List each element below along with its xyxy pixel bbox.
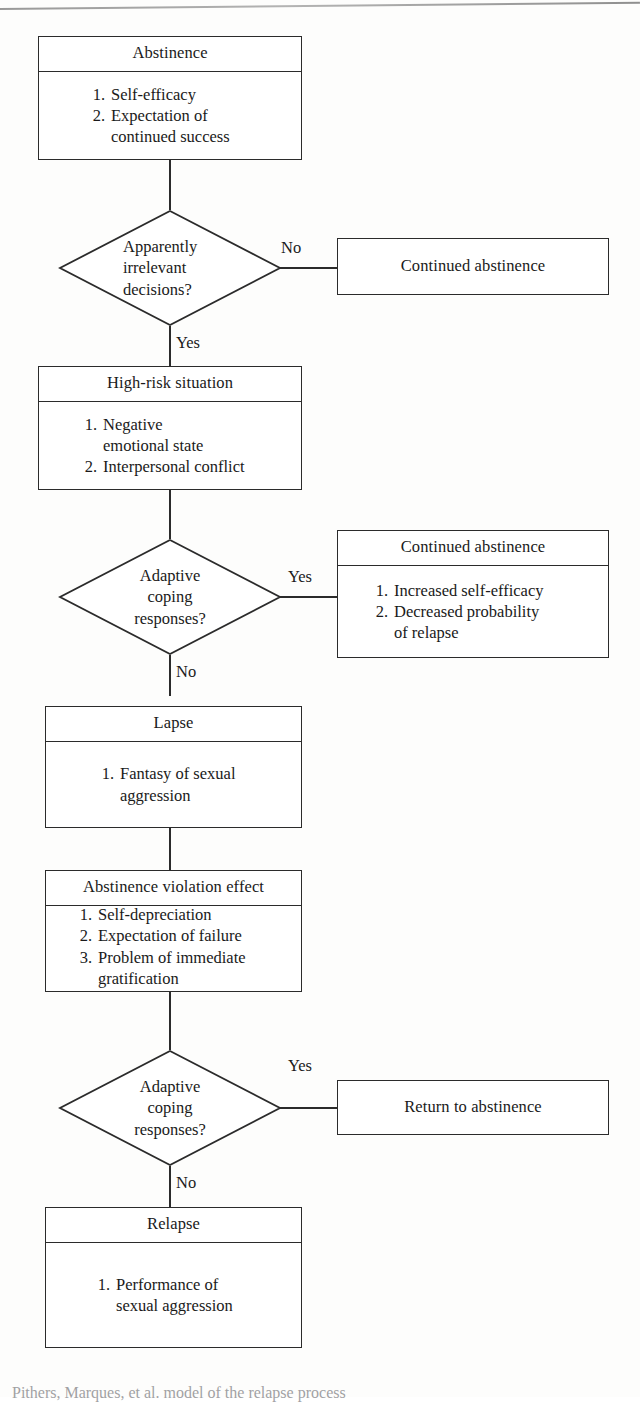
node-continued-abstinence-1[interactable]: Continued abstinence <box>337 238 609 295</box>
list-item-text: Negative emotional state <box>103 414 203 456</box>
list-item: 1. Self-efficacy <box>85 84 230 105</box>
list-item: 1. Fantasy of sexual aggression <box>94 763 235 805</box>
node-high-risk[interactable]: High-risk situation 1. Negative emotiona… <box>38 366 302 490</box>
page-top-rule <box>0 2 640 10</box>
connector-lapse-to-ave <box>169 828 171 870</box>
list-item-number: 1. <box>72 904 98 925</box>
node-continued-abstinence-2-title: Continued abstinence <box>338 531 608 566</box>
figure-caption: Pithers, Marques, et al. model of the re… <box>12 1383 628 1402</box>
connector-highrisk-to-coping1 <box>169 490 171 539</box>
list-item-number: 2. <box>85 105 111 126</box>
node-high-risk-title: High-risk situation <box>39 367 301 402</box>
list-item: 2. Expectation of continued success <box>85 105 230 147</box>
connector-air-yes <box>169 326 171 366</box>
diamond-shape <box>59 539 281 655</box>
node-continued-abstinence-2-list: 1. Increased self-efficacy 2. Decreased … <box>368 580 543 643</box>
list-item-number: 1. <box>77 414 103 435</box>
list-item-text: Performance of sexual aggression <box>116 1274 233 1316</box>
list-item-text: Expectation of failure <box>98 925 242 946</box>
node-relapse[interactable]: Relapse 1. Performance of sexual aggress… <box>45 1207 302 1348</box>
node-abstinence-violation-effect[interactable]: Abstinence violation effect 1. Self-depr… <box>45 870 302 992</box>
list-item-number: 2. <box>77 456 103 477</box>
list-item-text: Self-efficacy <box>111 84 196 105</box>
node-lapse-title: Lapse <box>46 707 301 742</box>
list-item-number: 2. <box>72 925 98 946</box>
diamond-shape <box>59 1050 281 1166</box>
node-continued-abstinence-2[interactable]: Continued abstinence 1. Increased self-e… <box>337 530 609 658</box>
list-item: 1. Negative emotional state <box>77 414 245 456</box>
node-decision-coping-2[interactable]: Adaptive coping responses? <box>59 1050 281 1166</box>
list-item-text: Fantasy of sexual aggression <box>120 763 235 805</box>
list-item-number: 1. <box>85 84 111 105</box>
node-abstinence-list: 1. Self-efficacy 2. Expectation of conti… <box>85 84 230 147</box>
list-item-number: 1. <box>94 763 120 784</box>
node-decision-air[interactable]: Apparently irrelevant decisions? <box>59 210 281 326</box>
node-return-to-abstinence-title: Return to abstinence <box>338 1099 608 1116</box>
node-relapse-title: Relapse <box>46 1208 301 1243</box>
edge-label-air-yes: Yes <box>176 335 200 352</box>
list-item-text: Increased self-efficacy <box>394 580 543 601</box>
connector-air-no <box>280 267 337 269</box>
node-abstinence[interactable]: Abstinence 1. Self-efficacy 2. Expectati… <box>38 36 302 160</box>
node-high-risk-list: 1. Negative emotional state 2. Interpers… <box>77 414 245 477</box>
node-lapse-list: 1. Fantasy of sexual aggression <box>94 763 235 805</box>
diamond-shape <box>59 210 281 326</box>
connector-coping2-yes <box>280 1107 337 1109</box>
node-lapse[interactable]: Lapse 1. Fantasy of sexual aggression <box>45 706 302 828</box>
node-continued-abstinence-2-body: 1. Increased self-efficacy 2. Decreased … <box>338 566 608 656</box>
node-ave-body: 1. Self-depreciation 2. Expectation of f… <box>46 906 301 990</box>
node-lapse-body: 1. Fantasy of sexual aggression <box>46 742 301 826</box>
connector-coping1-yes <box>280 596 337 598</box>
edge-label-coping2-no: No <box>176 1175 196 1192</box>
node-relapse-list: 1. Performance of sexual aggression <box>90 1274 233 1316</box>
list-item: 2. Interpersonal conflict <box>77 456 245 477</box>
connector-ave-to-coping2 <box>169 992 171 1050</box>
list-item-number: 3. <box>72 947 98 968</box>
edge-label-coping1-yes: Yes <box>288 569 312 586</box>
list-item-text: Decreased probability of relapse <box>394 601 539 643</box>
edge-label-coping2-yes: Yes <box>288 1058 312 1075</box>
list-item-text: Self-depreciation <box>98 904 212 925</box>
node-return-to-abstinence[interactable]: Return to abstinence <box>337 1080 609 1135</box>
connector-abstinence-to-air <box>169 160 171 210</box>
node-ave-list: 1. Self-depreciation 2. Expectation of f… <box>72 904 246 988</box>
node-abstinence-title: Abstinence <box>39 37 301 72</box>
list-item: 1. Increased self-efficacy <box>368 580 543 601</box>
list-item: 1. Performance of sexual aggression <box>90 1274 233 1316</box>
node-high-risk-body: 1. Negative emotional state 2. Interpers… <box>39 402 301 488</box>
node-decision-coping-1[interactable]: Adaptive coping responses? <box>59 539 281 655</box>
node-ave-title: Abstinence violation effect <box>46 871 301 906</box>
list-item-number: 1. <box>90 1274 116 1295</box>
list-item-text: Interpersonal conflict <box>103 456 245 477</box>
node-abstinence-body: 1. Self-efficacy 2. Expectation of conti… <box>39 72 301 158</box>
edge-label-coping1-no: No <box>176 664 196 681</box>
list-item: 3. Problem of immediate gratification <box>72 947 246 989</box>
list-item-number: 2. <box>368 601 394 622</box>
list-item-text: Problem of immediate gratification <box>98 947 246 989</box>
edge-label-air-no: No <box>281 240 301 257</box>
list-item: 2. Decreased probability of relapse <box>368 601 543 643</box>
connector-coping1-no <box>169 655 171 696</box>
connector-coping2-no <box>169 1166 171 1207</box>
list-item-number: 1. <box>368 580 394 601</box>
node-continued-abstinence-1-title: Continued abstinence <box>338 258 608 275</box>
list-item: 2. Expectation of failure <box>72 925 246 946</box>
list-item: 1. Self-depreciation <box>72 904 246 925</box>
node-relapse-body: 1. Performance of sexual aggression <box>46 1243 301 1346</box>
list-item-text: Expectation of continued success <box>111 105 230 147</box>
